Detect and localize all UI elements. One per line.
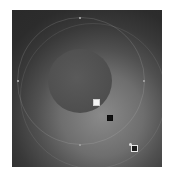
ring-marker-right[interactable] xyxy=(143,80,145,82)
focus-handle[interactable] xyxy=(93,99,100,106)
gradient-canvas[interactable] xyxy=(12,10,162,167)
ring-marker-top[interactable] xyxy=(79,17,81,19)
radius-handle[interactable] xyxy=(131,145,138,152)
ring-marker-bottom[interactable] xyxy=(79,144,81,146)
gradient-outer-ring xyxy=(20,23,162,167)
center-handle[interactable] xyxy=(107,115,113,121)
ring-marker-left[interactable] xyxy=(17,80,19,82)
